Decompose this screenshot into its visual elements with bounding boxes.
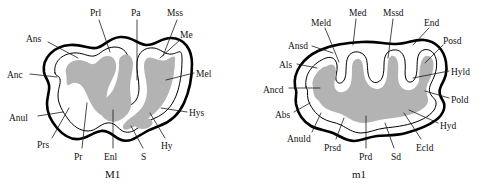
tooth-morphology-figure: Prl Pa Mss Ans Me Anc Mel Anul Hys Prs P… bbox=[0, 0, 485, 192]
label-hy: Hy bbox=[161, 141, 173, 151]
label-pold: Pold bbox=[451, 95, 468, 105]
label-s: S bbox=[141, 152, 146, 162]
label-prsd: Prsd bbox=[324, 143, 341, 153]
label-abs: Abs bbox=[275, 110, 290, 120]
label-prs: Prs bbox=[37, 140, 49, 150]
label-anul: Anul bbox=[9, 113, 28, 123]
label-ancd: Ancd bbox=[263, 85, 284, 95]
label-enl: Enl bbox=[104, 152, 117, 162]
label-ansd: Ansd bbox=[288, 41, 308, 51]
label-sd: Sd bbox=[391, 152, 401, 162]
label-med: Med bbox=[349, 8, 366, 18]
label-anuld: Anuld bbox=[287, 134, 311, 144]
label-mel: Mel bbox=[196, 69, 211, 79]
label-hys: Hys bbox=[189, 108, 204, 118]
label-prl: Prl bbox=[90, 8, 101, 18]
label-pa: Pa bbox=[131, 8, 141, 18]
label-posd: Posd bbox=[443, 36, 461, 46]
label-anc: Anc bbox=[7, 70, 23, 80]
label-me: Me bbox=[180, 30, 193, 40]
label-end: End bbox=[424, 18, 439, 28]
molar-diagrams-svg bbox=[0, 0, 485, 192]
label-ecld: Ecld bbox=[416, 143, 433, 153]
label-meld: Meld bbox=[311, 18, 331, 28]
label-als: Als bbox=[279, 60, 292, 70]
label-prd: Prd bbox=[359, 152, 372, 162]
label-hyld: Hyld bbox=[451, 67, 470, 77]
lower-molar-drawing bbox=[289, 19, 449, 148]
label-hyd: Hyd bbox=[440, 121, 456, 131]
caption-upper-molar: M1 bbox=[105, 168, 120, 180]
label-ans: Ans bbox=[26, 34, 41, 44]
upper-molar-drawing bbox=[30, 20, 194, 148]
label-pr: Pr bbox=[74, 152, 82, 162]
label-mssd: Mssd bbox=[383, 8, 404, 18]
label-mss: Mss bbox=[167, 8, 183, 18]
caption-lower-molar: m1 bbox=[352, 168, 366, 180]
